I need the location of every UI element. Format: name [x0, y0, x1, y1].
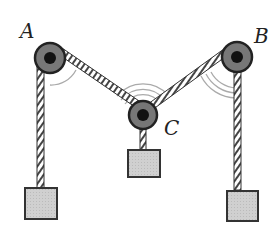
pulley-diagram: A B C	[0, 0, 278, 229]
mass-center	[128, 150, 160, 177]
mass-right	[227, 191, 258, 221]
pulley-b	[222, 42, 252, 72]
label-b: B	[253, 24, 269, 48]
pulley-a	[35, 43, 65, 73]
angle-arcs	[50, 70, 236, 104]
label-c: C	[164, 116, 179, 140]
label-a: A	[18, 19, 34, 43]
mass-left	[25, 188, 57, 219]
pulley-c	[129, 101, 157, 129]
